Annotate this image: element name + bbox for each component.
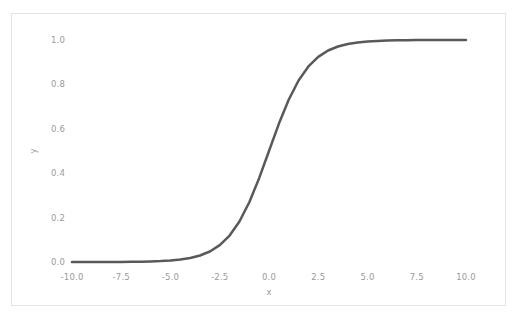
x-tick-label: 0.0 [262,272,276,282]
y-tick-label: 0.8 [43,79,65,89]
x-tick-label: -5.0 [162,272,179,282]
y-tick-label: 1.0 [43,35,65,45]
x-tick-label: 10.0 [456,272,476,282]
y-tick-label: 0.6 [43,124,65,134]
x-tick-label: 7.5 [410,272,424,282]
y-axis-label: y [28,148,38,153]
x-tick-label: -7.5 [113,272,130,282]
sigmoid-curve [72,40,466,262]
x-tick-label: 2.5 [311,272,325,282]
y-tick-label: 0.4 [43,168,65,178]
y-tick-label: 0.2 [43,213,65,223]
x-tick-label: 5.0 [360,272,374,282]
x-tick-label: -2.5 [211,272,228,282]
x-axis-label: x [266,287,271,297]
y-tick-label: 0.0 [43,257,65,267]
x-tick-label: -10.0 [61,272,84,282]
